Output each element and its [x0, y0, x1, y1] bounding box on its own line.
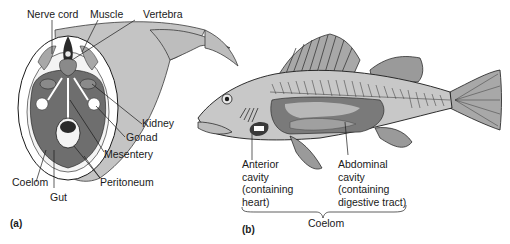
coelom-figure: Nerve cord Muscle Vertebra Kidney Gonad … — [0, 0, 510, 244]
label-peritoneum: Peritoneum — [100, 176, 154, 188]
label-coelom-brace: Coelom — [308, 217, 344, 229]
label-muscle: Muscle — [90, 8, 123, 20]
label-gonad: Gonad — [126, 131, 158, 143]
label-vertebra: Vertebra — [143, 8, 183, 20]
panel-label-a: (a) — [10, 218, 22, 229]
panel-label-b: (b) — [242, 224, 255, 235]
label-gut: Gut — [50, 191, 67, 203]
label-coelom: Coelom — [12, 176, 48, 188]
label-abdominal-cavity: Abdominal cavity (containing digestive t… — [338, 158, 406, 208]
label-nerve-cord: Nerve cord — [27, 8, 78, 20]
label-anterior-cavity: Anterior cavity (containing heart) — [242, 158, 293, 208]
label-kidney: Kidney — [142, 117, 174, 129]
cross-section — [18, 36, 118, 180]
fish — [198, 34, 502, 169]
label-mesentery: Mesentery — [104, 148, 153, 160]
